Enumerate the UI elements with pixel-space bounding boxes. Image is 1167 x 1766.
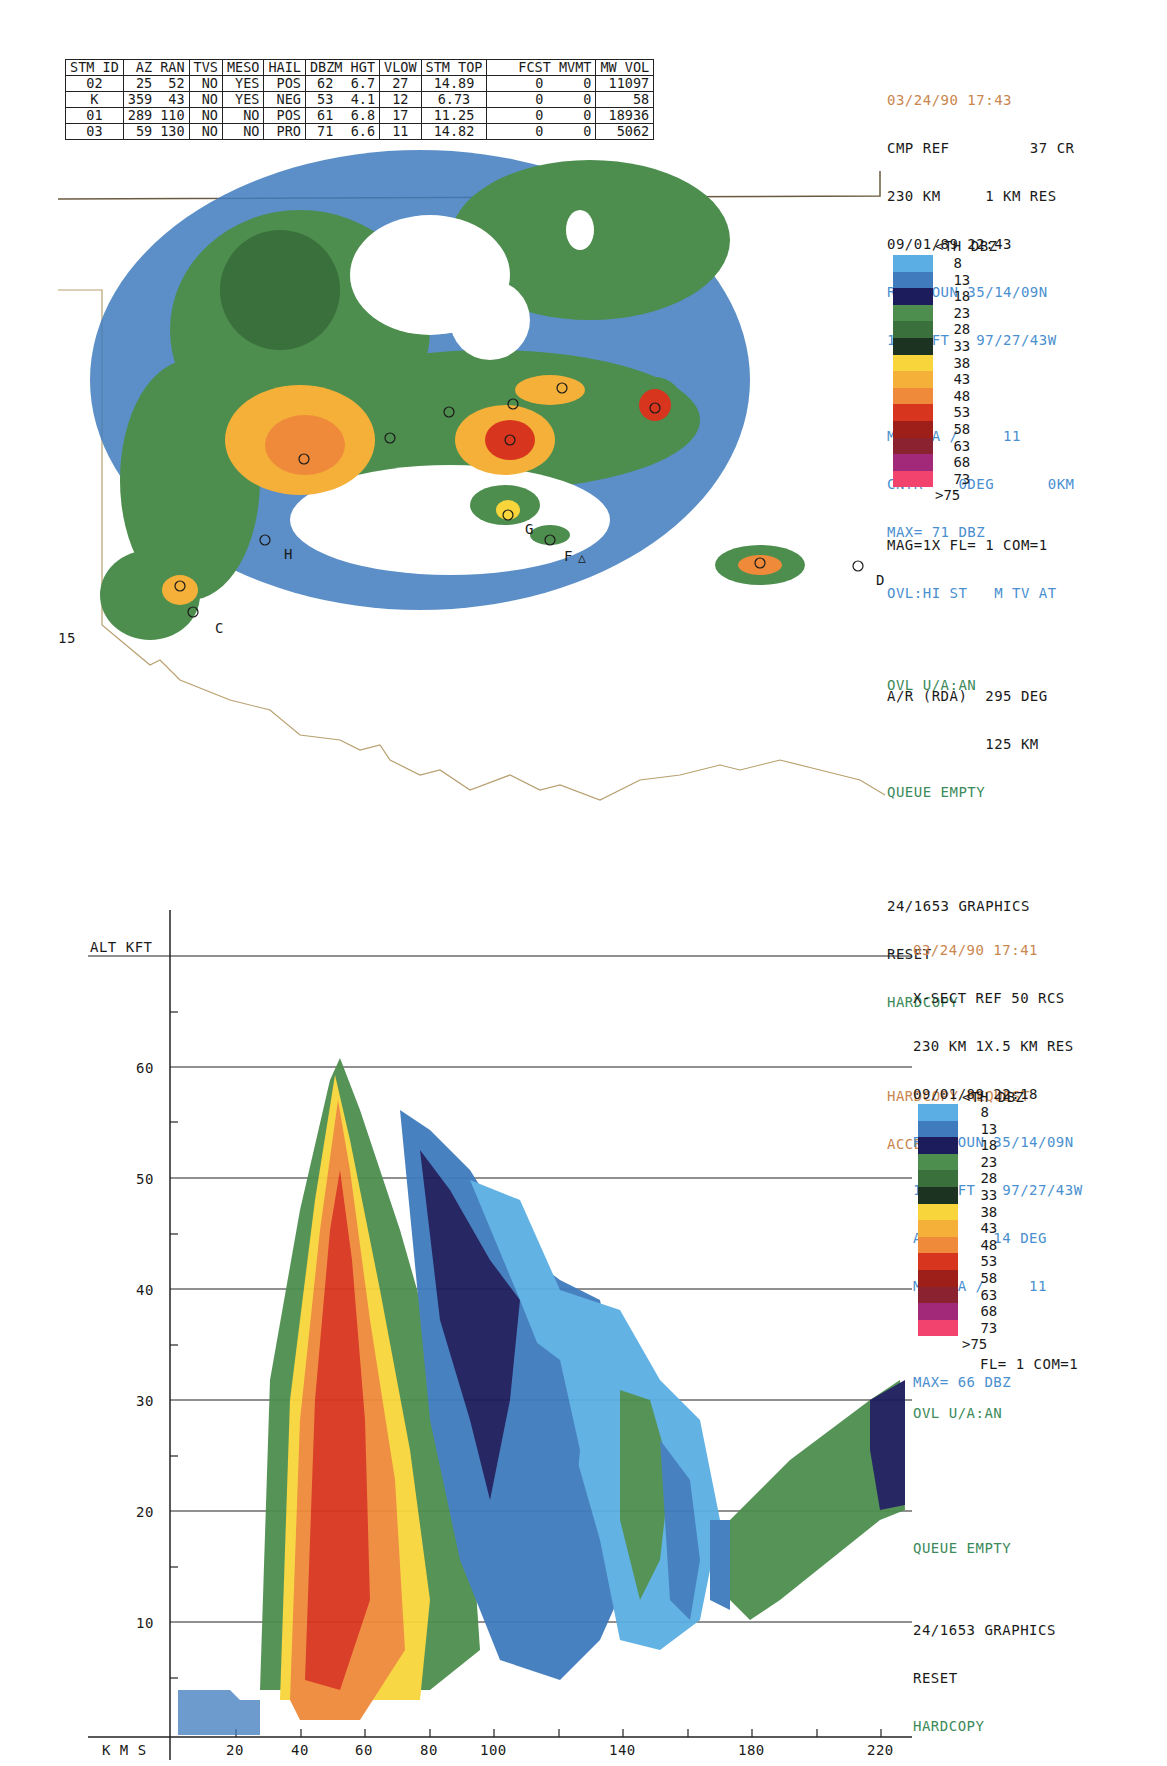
top-legend-title: <TH DBZ	[935, 238, 998, 254]
cell-hail: NEG	[264, 92, 306, 108]
legend-level-label: 18	[972, 1137, 997, 1154]
cell-az: 59	[123, 124, 156, 140]
cell-vlow: 12	[380, 92, 422, 108]
cell-id: 01	[66, 108, 124, 124]
legend-swatch	[918, 1270, 958, 1287]
legend-level-label: 68	[945, 454, 970, 471]
legend-swatch	[918, 1170, 958, 1187]
legend-level-label: 13	[972, 1121, 997, 1138]
legend-level-label: 23	[945, 305, 970, 322]
bottom-range: 230 KM 1X.5 KM RES	[913, 1038, 1083, 1054]
cell-hail: POS	[264, 76, 306, 92]
cell-vlow: 11	[380, 124, 422, 140]
legend-level-label: 18	[945, 288, 970, 305]
cell-stm-top: 14.89	[421, 76, 487, 92]
legend-level-label: 53	[972, 1253, 997, 1270]
legend-level-label: 33	[945, 338, 970, 355]
legend-swatch	[918, 1137, 958, 1154]
legend-swatch	[893, 421, 933, 438]
legend-level-label: 8	[945, 255, 970, 272]
legend-level-label: 43	[972, 1220, 997, 1237]
y-tick-60: 60	[136, 1060, 154, 1076]
cell-fcst2: 0	[547, 124, 596, 140]
legend-level-label: 13	[945, 272, 970, 289]
x-tick-140: 140	[609, 1742, 636, 1758]
table-row: 03 59 130 NO NO PRO 71 6.6 11 14.82 0 0 …	[66, 124, 654, 140]
legend-swatch	[893, 471, 933, 488]
legend-level-label: 58	[945, 421, 970, 438]
header-stm-top: STM TOP	[421, 60, 487, 76]
legend-level-label: 38	[945, 355, 970, 372]
legend-swatch	[893, 355, 933, 372]
bottom-hardcopy: HARDCOPY	[913, 1718, 1056, 1734]
cell-ran: 130	[156, 124, 189, 140]
map-label-f: F	[564, 548, 573, 564]
legend-level-label: 63	[972, 1287, 997, 1304]
cell-mw-vol: 11097	[596, 76, 654, 92]
legend-level-label: 58	[972, 1270, 997, 1287]
cell-az: 25	[123, 76, 156, 92]
cell-hail: PRO	[264, 124, 306, 140]
legend-swatch	[918, 1121, 958, 1138]
x-tick-20: 20	[226, 1742, 244, 1758]
top-datetime: 03/24/90 17:43	[887, 92, 1075, 108]
legend-swatch	[893, 404, 933, 421]
header-meso: MESO	[222, 60, 264, 76]
legend-swatch	[893, 321, 933, 338]
cell-az: 289	[123, 108, 156, 124]
legend-swatch	[918, 1187, 958, 1204]
legend-level-label: 43	[945, 371, 970, 388]
cell-vlow: 17	[380, 108, 422, 124]
legend-level-label: 8	[972, 1104, 997, 1121]
legend-swatch	[893, 438, 933, 455]
bottom-max: MAX= 66 DBZ	[913, 1374, 1083, 1390]
legend-swatch	[918, 1204, 958, 1221]
map-label-d: D	[876, 572, 885, 588]
bottom-legend-labels: 8 13 18 23 28 33 38 43 48 53 58 63 68 73…	[972, 1104, 997, 1353]
x-tick-60: 60	[355, 1742, 373, 1758]
state-border-north	[58, 171, 880, 199]
y-tick-20: 20	[136, 1504, 154, 1520]
legend-swatch	[918, 1253, 958, 1270]
reflectivity-cross-section	[178, 1058, 905, 1735]
cell-hgt: 6.7	[337, 76, 379, 92]
cell-fcst2: 0	[547, 108, 596, 124]
top-color-legend	[893, 255, 933, 487]
header-az-ran: AZ RAN	[123, 60, 189, 76]
legend-level-label: 28	[972, 1170, 997, 1187]
map-label-c: C	[215, 620, 224, 636]
x-tick-180: 180	[738, 1742, 765, 1758]
legend-level-label: >75	[962, 1336, 997, 1353]
cell-dbzm: 62	[305, 76, 337, 92]
cell-fcst1: 0	[487, 76, 548, 92]
storm-attribute-table: STM ID AZ RAN TVS MESO HAIL DBZM HGT VLO…	[65, 59, 654, 140]
bottom-product: X-SECT REF 50 RCS	[913, 990, 1083, 1006]
top-ar-line2: 125 KM	[887, 736, 1048, 752]
cell-meso: NO	[222, 124, 264, 140]
legend-level-label: >75	[935, 487, 970, 504]
top-ovl-hi: OVL:HI ST M TV AT	[887, 585, 1057, 601]
legend-swatch	[918, 1320, 958, 1337]
legend-level-label: 68	[972, 1303, 997, 1320]
legend-swatch	[918, 1237, 958, 1254]
legend-swatch	[893, 371, 933, 388]
cell-tvs: NO	[189, 76, 222, 92]
cell-mw-vol: 18936	[596, 108, 654, 124]
bottom-fl: FL= 1 COM=1	[980, 1356, 1078, 1372]
legend-swatch	[918, 1104, 958, 1121]
top-queue: QUEUE EMPTY	[887, 784, 1048, 800]
top-ar-line1: A/R (RDA) 295 DEG	[887, 688, 1048, 704]
header-mw-vol: MW VOL	[596, 60, 654, 76]
legend-swatch	[918, 1154, 958, 1171]
cell-fcst1: 0	[487, 124, 548, 140]
legend-swatch	[918, 1303, 958, 1320]
triangle-icon: △	[578, 550, 586, 566]
legend-level-label: 33	[972, 1187, 997, 1204]
cell-fcst1: 0	[487, 108, 548, 124]
x-axis-title: K M S	[102, 1742, 147, 1758]
legend-level-label: 73	[972, 1320, 997, 1337]
bottom-color-legend	[918, 1104, 958, 1336]
table-row: K 359 43 NO YES NEG 53 4.1 12 6.73 0 0 5…	[66, 92, 654, 108]
header-dbzm-hgt: DBZM HGT	[305, 60, 379, 76]
top-range: 230 KM 1 KM RES	[887, 188, 1075, 204]
